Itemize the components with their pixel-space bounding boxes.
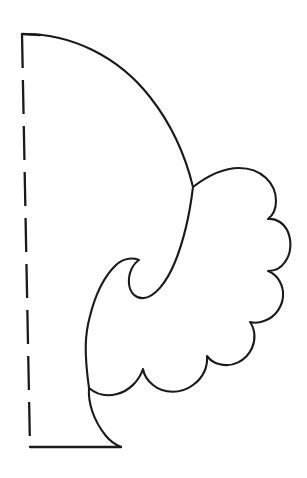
- pattern-canvas: [0, 0, 307, 478]
- pattern-drawing: [0, 0, 307, 478]
- page-background: [0, 0, 307, 478]
